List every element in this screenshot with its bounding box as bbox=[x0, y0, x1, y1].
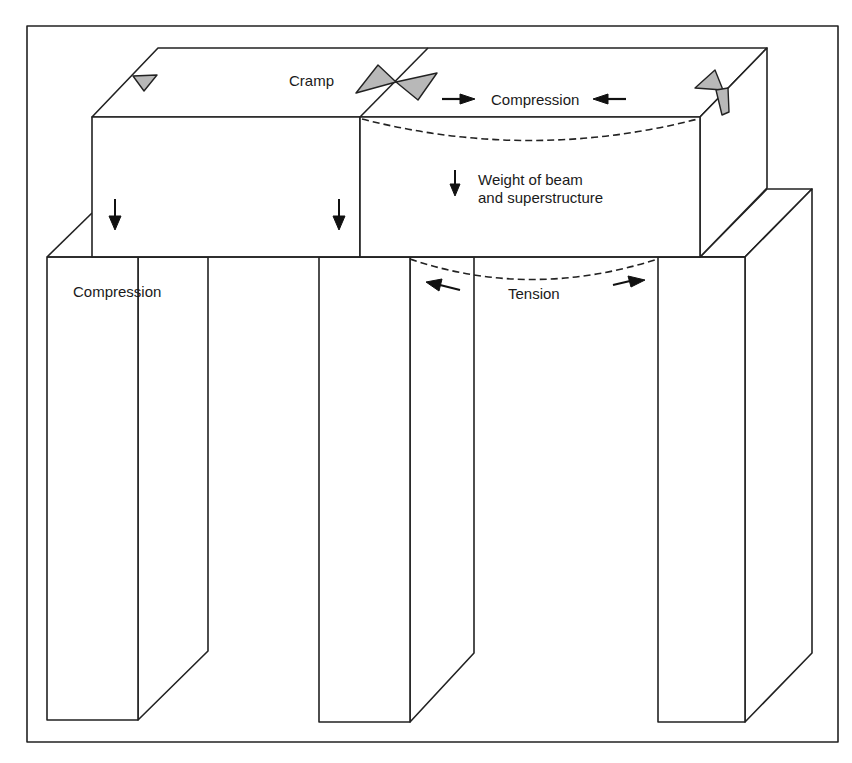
pillar-right bbox=[658, 189, 812, 722]
beam-compression-label: Compression bbox=[491, 91, 579, 108]
post-and-lintel-diagram: Cramp Compression Weight of beam and sup… bbox=[0, 0, 852, 763]
arrow-right-icon-tension bbox=[613, 276, 645, 287]
cramp-label: Cramp bbox=[289, 72, 334, 89]
lintel-left bbox=[92, 117, 360, 257]
pillar-compression-label: Compression bbox=[73, 283, 161, 300]
pillar-middle bbox=[319, 257, 474, 722]
tension-label: Tension bbox=[508, 285, 560, 302]
weight-label-line2: and superstructure bbox=[478, 189, 603, 206]
weight-label-line1: Weight of beam bbox=[478, 171, 583, 188]
